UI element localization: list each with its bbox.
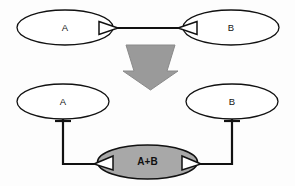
left-connector-path — [63, 119, 98, 164]
top-left-ellipse-label: A — [62, 22, 69, 33]
transform-arrow-group — [123, 45, 178, 90]
right-connector-path — [197, 119, 232, 164]
bottom-left-ellipse-label: A — [60, 96, 67, 107]
bottom-right-ellipse-label: B — [229, 96, 235, 107]
merged-ellipse-label: A+B — [137, 156, 157, 167]
top-right-ellipse-label: B — [228, 22, 234, 33]
merge-diagram: A B A B — [0, 0, 295, 186]
diagram-canvas: A B A B — [0, 0, 295, 186]
top-row-group: A B — [17, 10, 279, 45]
merged-node-group: A+B — [94, 145, 201, 179]
down-block-arrow-icon — [123, 45, 178, 90]
